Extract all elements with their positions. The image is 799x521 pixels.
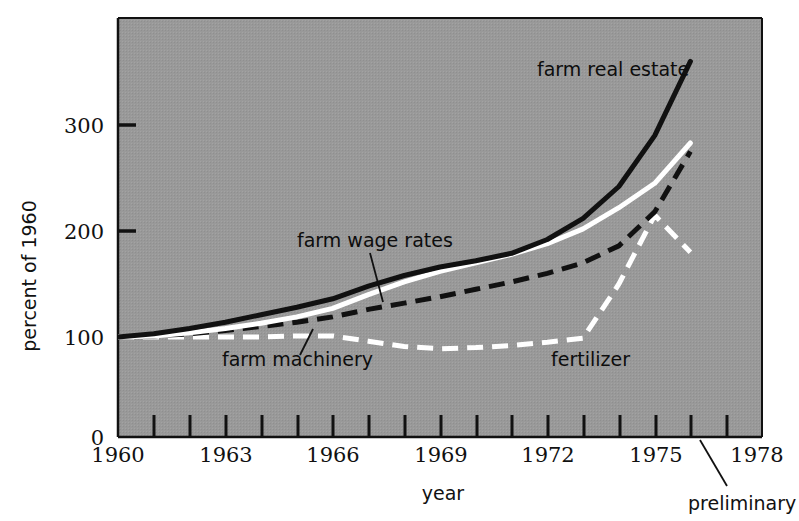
- line-chart: 300 200 100 0 1960 1963 1966 19: [0, 0, 799, 521]
- x-tick-label-1963: 1963: [199, 443, 252, 467]
- x-tick-label-1969: 1969: [414, 443, 467, 467]
- y-tick-label-200: 200: [64, 220, 104, 244]
- y-axis-title: percent of 1960: [18, 200, 40, 352]
- x-tick-label-1978: 1978: [730, 443, 783, 467]
- y-tick-label-100: 100: [64, 326, 104, 350]
- label-preliminary: preliminary: [688, 492, 796, 514]
- label-farm-machinery: farm machinery: [222, 348, 373, 370]
- y-tick-label-300: 300: [64, 114, 104, 138]
- x-axis-title: year: [422, 482, 465, 504]
- x-tick-label-1972: 1972: [521, 443, 574, 467]
- leader-line-preliminary: [700, 440, 727, 486]
- label-farm-wage-rates: farm wage rates: [297, 229, 453, 251]
- label-farm-real-estate: farm real estate: [537, 58, 689, 80]
- label-fertilizer: fertilizer: [551, 348, 630, 370]
- x-tick-label-1975: 1975: [629, 443, 682, 467]
- chart-figure: 300 200 100 0 1960 1963 1966 19: [0, 0, 799, 521]
- x-tick-label-1960: 1960: [91, 443, 144, 467]
- x-tick-label-1966: 1966: [306, 443, 359, 467]
